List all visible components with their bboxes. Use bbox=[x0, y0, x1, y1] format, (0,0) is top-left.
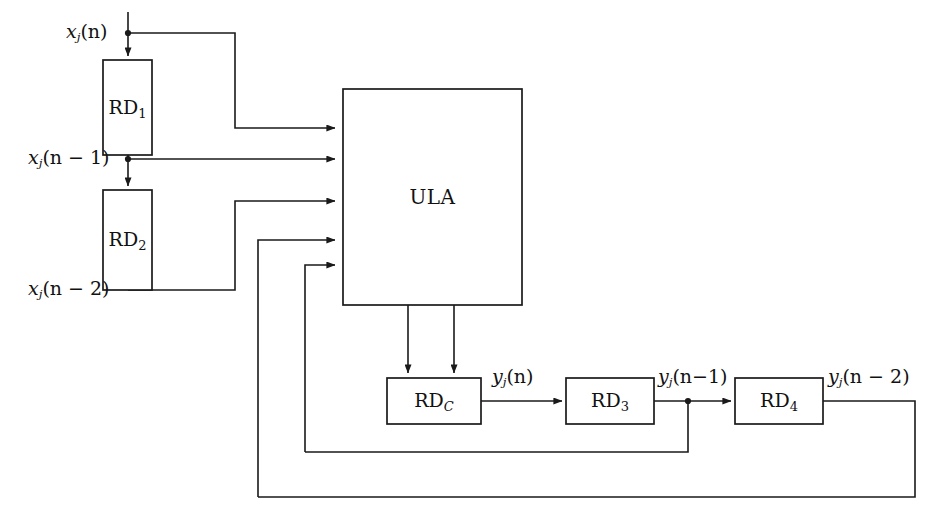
block-rd4: RD4 bbox=[735, 378, 823, 424]
signal-label-yjn2: yj(n − 2) bbox=[828, 367, 910, 389]
signal-label-xjn: xj(n) bbox=[66, 22, 107, 44]
block-rd3: RD3 bbox=[566, 378, 654, 424]
junction-dot-yjn1 bbox=[685, 398, 691, 404]
junction-dot-xjn1 bbox=[125, 156, 131, 162]
diagram-canvas: RD1RD2ULARDCRD3RD4 bbox=[0, 0, 939, 520]
block-diagram: RD1RD2ULARDCRD3RD4 xj(n)xj(n − 1)xj(n − … bbox=[0, 0, 939, 520]
block-rdc: RDC bbox=[387, 378, 481, 424]
wire-fb-outer-to-ula bbox=[258, 240, 335, 497]
signal-label-yjn1: yj(n−1) bbox=[658, 367, 727, 389]
wire-rd2-out-to-ula bbox=[128, 201, 335, 290]
block-ula: ULA bbox=[343, 89, 522, 305]
block-rd2: RD2 bbox=[103, 190, 152, 290]
signal-label-xjn2: xj(n − 2) bbox=[28, 279, 110, 301]
wire-fb-inner-to-ula bbox=[305, 265, 335, 452]
signal-label-xjn1: xj(n − 1) bbox=[28, 148, 110, 170]
wire-xjn-tap-to-ula bbox=[128, 33, 335, 128]
signal-label-yjn: yj(n) bbox=[492, 367, 533, 389]
block-label-ula: ULA bbox=[409, 185, 455, 209]
block-rd1: RD1 bbox=[103, 60, 152, 155]
junction-dot-xjn bbox=[125, 30, 131, 36]
